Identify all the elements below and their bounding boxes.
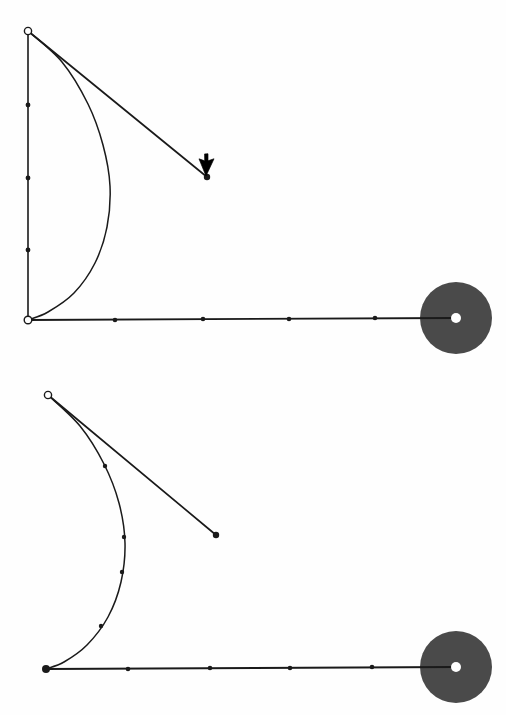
horizontal-member-tick: [208, 666, 213, 671]
ground-anchor-node: [24, 316, 32, 324]
curve-tick: [103, 464, 107, 468]
diagram-canvas: [0, 0, 506, 715]
pivot-node: [44, 391, 51, 398]
lower-panel: [42, 391, 492, 703]
hub-center-dot: [451, 662, 461, 672]
horizontal-member-tick: [287, 317, 292, 322]
deflected-beam-curve: [28, 31, 110, 320]
horizontal-member-tick: [288, 666, 293, 671]
rigid-member: [48, 395, 216, 535]
curve-tick: [99, 624, 103, 628]
rigid-member: [28, 31, 207, 177]
mouse-cursor[interactable]: [194, 151, 215, 176]
horizontal-member-tick: [201, 317, 206, 322]
deflected-beam-curve: [46, 395, 125, 669]
cursor-arrow-icon: [194, 151, 215, 176]
pendulum-diagram-figure: [0, 0, 506, 715]
hub-center-dot: [451, 313, 461, 323]
horizontal-member: [28, 318, 456, 320]
rigid-member-endpoint: [204, 174, 210, 180]
curve-tick: [120, 570, 124, 574]
curve-tick: [122, 535, 126, 539]
horizontal-member-tick: [113, 318, 118, 323]
upper-panel: [24, 27, 492, 354]
horizontal-member-tick: [370, 665, 375, 670]
horizontal-member-tick: [373, 316, 378, 321]
vertical-member-tick: [26, 103, 31, 108]
horizontal-member-tick: [126, 667, 131, 672]
vertical-member-tick: [26, 176, 31, 181]
ground-anchor-node: [42, 665, 50, 673]
horizontal-member: [46, 667, 456, 669]
vertical-member-tick: [26, 248, 31, 253]
pivot-node: [24, 27, 31, 34]
rigid-member-endpoint: [213, 532, 219, 538]
